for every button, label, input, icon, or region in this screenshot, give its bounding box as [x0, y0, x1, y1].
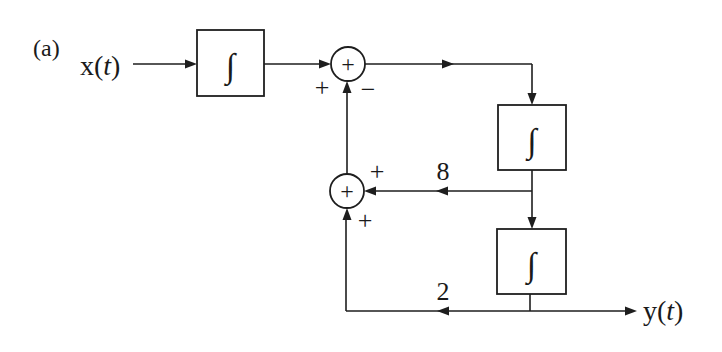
- wire-int2-to-int3: [528, 170, 537, 229]
- wire-int1-to-sum1: [264, 60, 331, 69]
- gain-label-2: 2: [437, 277, 450, 306]
- summing-junction-2: +: [330, 174, 364, 208]
- wire-sum2-to-sum1: [343, 81, 352, 174]
- integrator-block-3: ∫: [497, 229, 566, 294]
- output-label: y(t): [643, 295, 683, 326]
- plus-icon: +: [341, 51, 355, 77]
- feedback-path-gain-8: [364, 187, 532, 196]
- sign-summer1-bottom: −: [361, 75, 376, 104]
- wire-sum1-to-int2: [365, 60, 537, 106]
- integrator-block-1: ∫: [197, 30, 264, 96]
- output-path: [346, 294, 637, 316]
- plus-icon: +: [340, 178, 354, 204]
- integrator-block-2: ∫: [498, 105, 566, 170]
- sign-summer1-left: +: [315, 73, 330, 102]
- block-diagram: (a) x(t) ∫ + + − ∫: [0, 0, 722, 352]
- input-arrow: [133, 60, 197, 69]
- sign-summer2-bottom: +: [358, 206, 373, 235]
- input-label: x(t): [80, 50, 120, 81]
- sign-summer2-right: +: [370, 157, 385, 186]
- figure-label: (a): [33, 35, 60, 61]
- gain-label-8: 8: [437, 157, 450, 186]
